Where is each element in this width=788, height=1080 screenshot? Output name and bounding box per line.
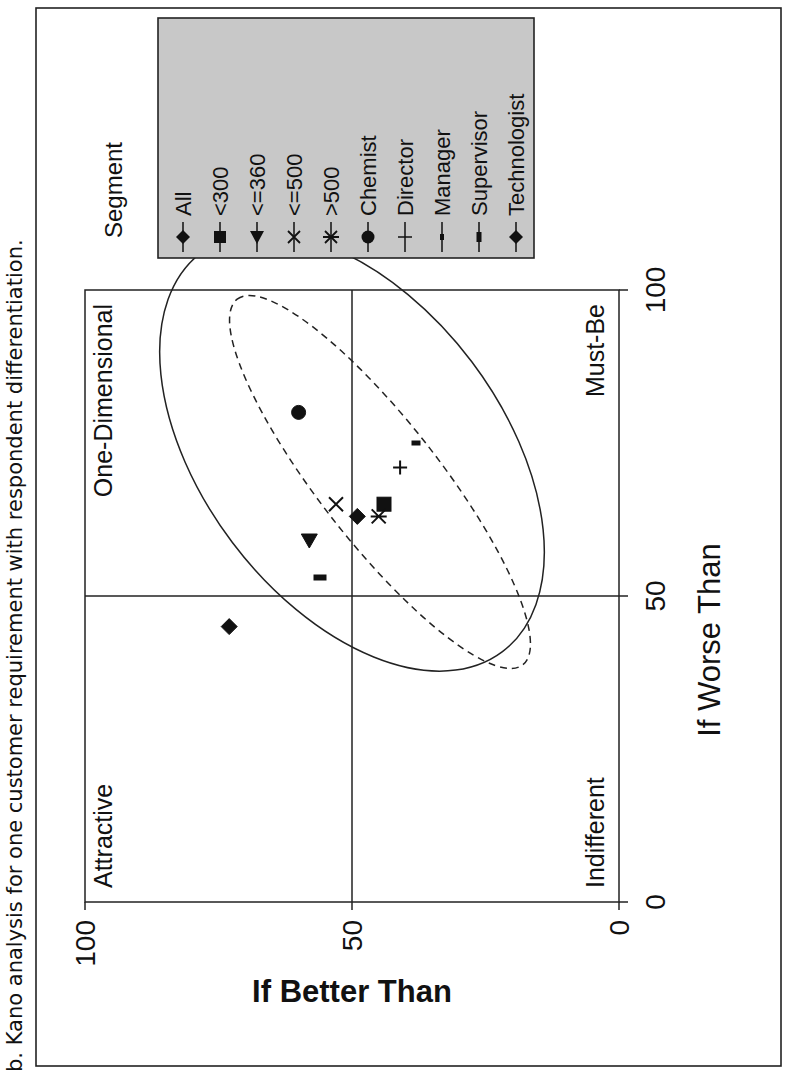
y-tick-50: 50 (337, 920, 368, 951)
legend-label: All (171, 192, 196, 216)
point-supervisor-bar-icon (314, 575, 326, 580)
y-axis-title: If Better Than (252, 974, 452, 1009)
quadrant-attractive: Attractive (89, 784, 117, 888)
figure-svg: b. Kano analysis for one customer requir… (0, 0, 788, 1080)
bar-icon (477, 232, 482, 242)
legend-label: <=500 (282, 154, 307, 216)
small-bar-icon (440, 234, 444, 240)
legend-label: Technologist (504, 94, 529, 216)
figure: b. Kano analysis for one customer requir… (0, 0, 788, 1080)
y-tick-0: 0 (604, 920, 635, 936)
legend-label: Chemist (356, 135, 381, 216)
legend-label: Manager (430, 129, 455, 216)
legend-title: Segment (100, 142, 127, 238)
x-tick-50: 50 (640, 580, 671, 611)
legend-label: <=360 (245, 154, 270, 216)
y-tick-100: 100 (70, 920, 101, 967)
x-axis-title: If Worse Than (692, 543, 727, 737)
quadrant-one-dimensional: One-Dimensional (89, 304, 117, 497)
point-manager-bar-icon (412, 441, 420, 445)
circle-icon (362, 231, 375, 244)
quadrant-indifferent: Indifferent (581, 777, 609, 888)
legend-label: Director (393, 139, 418, 216)
x-tick-100: 100 (640, 267, 671, 314)
figure-caption: b. Kano analysis for one customer requir… (3, 239, 27, 1072)
legend-label: >500 (319, 166, 344, 216)
legend-label: Supervisor (467, 111, 492, 216)
rotated-chart-group: b. Kano analysis for one customer requir… (3, 8, 781, 1072)
quadrant-must-be: Must-Be (581, 304, 609, 397)
point-lt300-square-icon (377, 497, 391, 511)
x-tick-0: 0 (640, 894, 671, 910)
square-icon (214, 231, 226, 243)
legend-label: <300 (208, 166, 233, 216)
point-chemist-circle-icon (292, 405, 306, 419)
